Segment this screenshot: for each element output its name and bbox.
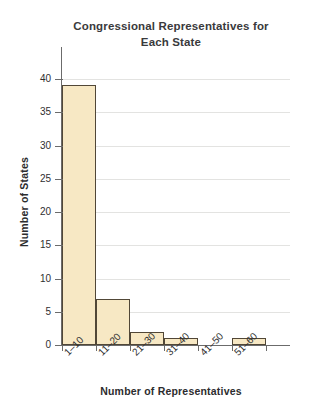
y-tick-20 <box>55 212 63 213</box>
y-tick-30 <box>55 146 63 147</box>
plot-area: 0 5 10 15 20 25 30 35 40 1–10 11–20 21–3… <box>0 0 321 410</box>
y-tick-label-15: 15 <box>11 240 51 250</box>
y-tick-40 <box>55 79 63 80</box>
x-axis-title: Number of Representatives <box>46 385 296 397</box>
y-tick-label-0: 0 <box>11 340 51 350</box>
y-tick-label-40: 40 <box>11 74 51 84</box>
y-tick-label-10: 10 <box>11 274 51 284</box>
y-tick-label-35: 35 <box>11 107 51 117</box>
gridline-15 <box>62 245 290 246</box>
x-tick-6 <box>266 345 267 351</box>
y-tick-label-5: 5 <box>11 307 51 317</box>
gridline-30 <box>62 146 290 147</box>
y-tick-label-20: 20 <box>11 207 51 217</box>
gridline-40 <box>62 79 290 80</box>
y-tick-label-30: 30 <box>11 141 51 151</box>
y-axis-line <box>61 47 62 346</box>
gridline-10 <box>62 279 290 280</box>
y-tick-25 <box>55 179 63 180</box>
y-tick-5 <box>55 312 63 313</box>
y-tick-15 <box>55 245 63 246</box>
gridline-20 <box>62 212 290 213</box>
y-tick-10 <box>55 279 63 280</box>
histogram-figure: Congressional Representatives for Each S… <box>0 0 321 410</box>
y-axis-title: Number of States <box>18 132 30 272</box>
y-tick-label-25: 25 <box>11 174 51 184</box>
y-tick-35 <box>55 112 63 113</box>
gridline-25 <box>62 179 290 180</box>
gridline-35 <box>62 112 290 113</box>
bar-1-10 <box>62 85 96 345</box>
